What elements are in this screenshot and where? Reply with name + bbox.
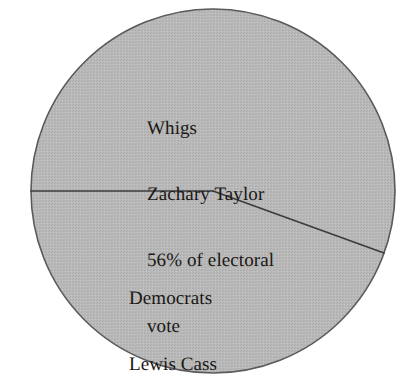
whigs-label-line-1: Whigs [147, 118, 274, 140]
pie-slice-label-democrats: Democrats Lewis Cass 44% of electoral vo… [129, 244, 233, 387]
pie-chart: Whigs Zachary Taylor 56% of electoral vo… [0, 0, 415, 387]
whigs-label-line-2: Zachary Taylor [147, 184, 274, 206]
democrats-label-line-2: Lewis Cass [129, 354, 233, 376]
democrats-label-line-1: Democrats [129, 288, 233, 310]
